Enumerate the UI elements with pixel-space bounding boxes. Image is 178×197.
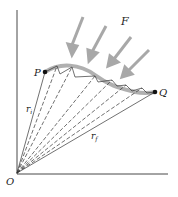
label-q: Q	[159, 87, 167, 98]
label-r-final: rf	[91, 131, 99, 143]
label-force: F	[120, 15, 129, 28]
label-r-initial: ri	[26, 104, 32, 115]
work-path-diagram: F P Q O ri rf	[0, 0, 178, 197]
point-q	[153, 90, 158, 95]
label-p: P	[33, 67, 41, 78]
label-o: O	[6, 176, 14, 187]
radial-lines	[17, 66, 155, 173]
point-p	[43, 70, 48, 75]
diagram-canvas: F P Q O ri rf	[0, 0, 178, 197]
